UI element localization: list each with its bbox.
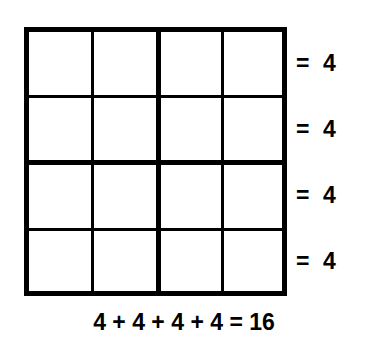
array-cell (224, 165, 282, 228)
summary-equation: 4 + 4 + 4 + 4 = 16 (0, 309, 368, 336)
array-cell (161, 98, 221, 160)
array-cell (29, 231, 91, 291)
equals-sign: = (296, 50, 323, 77)
array-cell (94, 32, 156, 95)
array-figure: =4 =4 =4 =4 4 + 4 + 4 + 4 = 16 (0, 0, 368, 351)
equals-sign: = (296, 248, 323, 275)
array-cell (29, 32, 91, 95)
array-cell (224, 32, 282, 95)
array-cell (94, 98, 156, 160)
array-cell (161, 165, 221, 228)
row-sum-value: 4 (323, 50, 336, 77)
row-sum-value: 4 (323, 248, 336, 275)
grid-line-vertical-mid (156, 32, 161, 291)
row-sum-value: 4 (323, 116, 336, 143)
grid-line-vertical (221, 32, 224, 291)
grid-line-vertical (91, 32, 94, 291)
array-grid-border (24, 27, 287, 296)
row-label-4: =4 (296, 246, 368, 276)
array-cell (161, 32, 221, 95)
array-grid (24, 27, 287, 296)
array-cell (224, 231, 282, 291)
row-label-1: =4 (296, 48, 368, 78)
equals-sign: = (296, 116, 323, 143)
array-grid-cells (29, 32, 282, 291)
array-cell (94, 231, 156, 291)
array-cell (94, 165, 156, 228)
array-cell (161, 231, 221, 291)
row-sum-value: 4 (323, 182, 336, 209)
row-label-3: =4 (296, 180, 368, 210)
array-cell (224, 98, 282, 160)
row-label-2: =4 (296, 114, 368, 144)
equals-sign: = (296, 182, 323, 209)
array-cell (29, 165, 91, 228)
array-cell (29, 98, 91, 160)
